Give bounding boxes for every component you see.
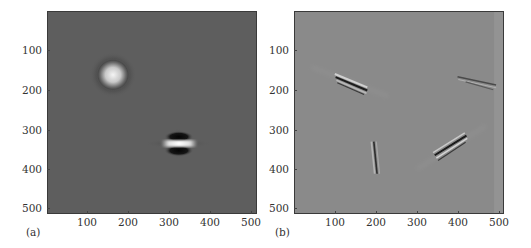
- panel-a-ytick-label: 400: [12, 163, 42, 175]
- panel-b-ytick-label: 500: [259, 202, 289, 214]
- panel-b-xtick-label: 200: [361, 216, 391, 228]
- panel-b-ytick-mark: [294, 208, 297, 209]
- panel-b-ytick-mark: [294, 50, 297, 51]
- panel-a-ytick-label: 100: [12, 44, 42, 56]
- panel-a-ytick-mark: [47, 90, 50, 91]
- panel-a-heatmap: [48, 12, 256, 213]
- panel-b-image: [294, 11, 504, 214]
- panel-b-xtick-mark: [417, 211, 418, 214]
- panel-a-xtick-label: 200: [113, 216, 143, 228]
- panel-a-xtick-mark: [169, 211, 170, 214]
- panel-b-xtick-label: 300: [402, 216, 432, 228]
- panel-b-ytick-mark: [294, 169, 297, 170]
- panel-a-xtick-label: 500: [236, 216, 266, 228]
- panel-b-xtick-mark: [335, 211, 336, 214]
- panel-b-ytick-label: 200: [259, 84, 289, 96]
- panel-a-xtick-label: 100: [72, 216, 102, 228]
- panel-b-ytick-mark: [294, 130, 297, 131]
- panel-a-xtick-label: 400: [195, 216, 225, 228]
- panel-a-ytick-mark: [47, 130, 50, 131]
- panel-a-xtick-mark: [251, 211, 252, 214]
- panel-b-xtick-mark: [458, 211, 459, 214]
- panel-a-xtick-mark: [128, 211, 129, 214]
- panel-b-ytick-label: 400: [259, 163, 289, 175]
- panel-a-image: [47, 11, 257, 214]
- panel-a-xtick-mark: [210, 211, 211, 214]
- panel-b-ytick-label: 100: [259, 44, 289, 56]
- panel-b-xtick-mark: [499, 211, 500, 214]
- panel-b-ytick-mark: [294, 90, 297, 91]
- panel-a-ytick-label: 500: [12, 202, 42, 214]
- panel-b-heatmap: [295, 12, 503, 213]
- panel-b-label: (b): [275, 226, 290, 238]
- panel-b-ytick-label: 300: [259, 124, 289, 136]
- panel-b-xtick-label: 100: [320, 216, 350, 228]
- panel-a-ytick-label: 200: [12, 84, 42, 96]
- panel-b-xtick-label: 500: [484, 216, 514, 228]
- panel-a-ytick-mark: [47, 208, 50, 209]
- panel-a-ytick-mark: [47, 169, 50, 170]
- panel-b-xtick-mark: [376, 211, 377, 214]
- panel-a-ytick-label: 300: [12, 124, 42, 136]
- panel-a-label: (a): [26, 226, 40, 238]
- panel-b-xtick-label: 400: [443, 216, 473, 228]
- panel-a-xtick-label: 300: [154, 216, 184, 228]
- panel-a-ytick-mark: [47, 50, 50, 51]
- panel-a-xtick-mark: [87, 211, 88, 214]
